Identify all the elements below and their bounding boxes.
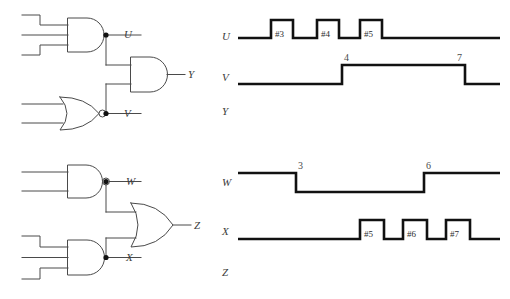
pulse-tag-u-1: #3 — [275, 29, 284, 39]
timing-label-z: Z — [222, 266, 228, 278]
edge-number-w-rise: 6 — [426, 160, 431, 171]
edge-number-v-fall: 7 — [457, 52, 462, 63]
edge-number-v-rise: 4 — [344, 52, 349, 63]
edge-number-w-fall: 3 — [298, 160, 303, 171]
pulse-tag-x-2: #6 — [407, 229, 416, 239]
pulse-tag-x-1: #5 — [364, 229, 373, 239]
waveform-path-v — [238, 65, 500, 84]
pulse-tag-u-3: #5 — [364, 29, 373, 39]
figure-canvas: U V Y W X Z U V Y W X Z #3 #4 #5 4 7 3 6… — [0, 0, 510, 299]
pulse-tag-u-2: #4 — [321, 29, 330, 39]
timing-layer — [0, 0, 510, 299]
timing-label-w: W — [222, 176, 231, 188]
timing-label-v: V — [222, 71, 229, 83]
waveform-path-w — [238, 173, 500, 192]
pulse-tag-x-3: #7 — [450, 229, 459, 239]
timing-label-y: Y — [222, 105, 228, 117]
timing-label-x: X — [222, 225, 229, 237]
timing-label-u: U — [222, 30, 230, 42]
